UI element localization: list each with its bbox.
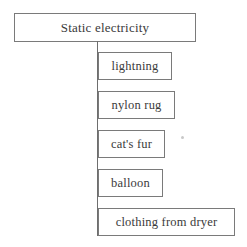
root-node-label: Static electricity	[61, 20, 149, 36]
child-node-label: cat's fur	[111, 137, 152, 152]
child-node-clothing-from-dryer: clothing from dryer	[98, 208, 235, 236]
root-node-static-electricity: Static electricity	[14, 13, 196, 42]
child-node-lightning: lightning	[98, 52, 172, 80]
child-node-label: balloon	[111, 176, 150, 191]
child-node-label: clothing from dryer	[116, 215, 218, 230]
child-node-label: nylon rug	[111, 98, 161, 113]
scan-artifact-speck	[181, 136, 184, 139]
child-node-label: lightning	[112, 59, 159, 74]
child-node-nylon-rug: nylon rug	[98, 91, 175, 119]
child-node-cats-fur: cat's fur	[98, 130, 165, 158]
child-node-balloon: balloon	[98, 169, 163, 197]
